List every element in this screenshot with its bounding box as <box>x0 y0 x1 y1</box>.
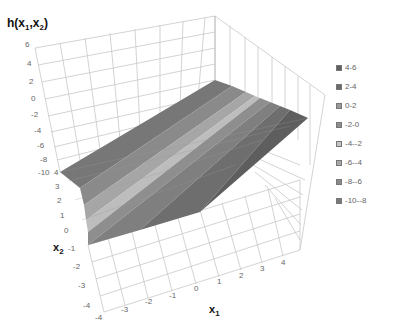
x1-tick: -2 <box>145 297 152 306</box>
z-tick: -10 <box>38 168 50 177</box>
legend-swatch <box>336 84 342 90</box>
legend-item: 2-4 <box>336 77 366 96</box>
x2-tick: 3 <box>55 182 59 191</box>
z-tick: 0 <box>31 94 35 103</box>
x1-axis-label: x1 <box>209 303 220 318</box>
legend-label: -8--6 <box>345 177 362 186</box>
surface-chart: h(x1,x2) 6 4 2 0 -2 -4 -6 -8 -10 4 3 2 1… <box>0 0 395 336</box>
x1-tick: -4 <box>95 313 102 322</box>
x1-tick: 1 <box>217 277 221 286</box>
z-tick: -2 <box>31 110 38 119</box>
x2-tick: 1 <box>60 211 64 220</box>
x2-tick: -3 <box>78 281 85 290</box>
z-tick: 6 <box>25 40 29 49</box>
legend-swatch <box>336 65 342 71</box>
chart-legend: 4-6 2-4 0-2 -2-0 -4--2 -6--4 -8--6 -10- <box>336 58 366 210</box>
legend-item: -2-0 <box>336 115 366 134</box>
legend-label: 2-4 <box>345 82 357 91</box>
z-tick: -4 <box>34 126 41 135</box>
z-tick: -6 <box>37 141 44 150</box>
x1-tick: -1 <box>169 291 176 300</box>
x1-tick: -3 <box>121 305 128 314</box>
legend-item: 0-2 <box>336 96 366 115</box>
surface <box>60 80 308 245</box>
x1-tick: 2 <box>239 271 243 280</box>
x2-tick: -1 <box>68 244 75 253</box>
legend-item: -8--6 <box>336 172 366 191</box>
legend-label: 0-2 <box>345 101 357 110</box>
x1-tick: 3 <box>260 264 264 273</box>
legend-item: -10--8 <box>336 191 366 210</box>
legend-label: -4--2 <box>345 139 362 148</box>
x2-tick: -2 <box>73 262 80 271</box>
z-tick: -8 <box>40 155 47 164</box>
chart-title: h(x1,x2) <box>7 16 48 32</box>
legend-item: -4--2 <box>336 134 366 153</box>
legend-label: 4-6 <box>345 63 357 72</box>
legend-swatch <box>336 122 342 128</box>
x2-axis-label: x2 <box>53 241 64 256</box>
legend-swatch <box>336 198 342 204</box>
x1-tick: 0 <box>194 284 198 293</box>
legend-swatch <box>336 141 342 147</box>
z-tick: 4 <box>27 59 31 68</box>
x2-tick: 4 <box>54 168 58 177</box>
legend-swatch <box>336 179 342 185</box>
legend-label: -10--8 <box>345 196 366 205</box>
legend-label: -2-0 <box>345 120 359 129</box>
legend-swatch <box>336 160 342 166</box>
x2-tick: -4 <box>83 301 90 310</box>
legend-item: -6--4 <box>336 153 366 172</box>
legend-swatch <box>336 103 342 109</box>
x2-tick: 0 <box>64 226 68 235</box>
x1-tick: 4 <box>281 258 285 267</box>
z-tick: 2 <box>29 77 33 86</box>
legend-item: 4-6 <box>336 58 366 77</box>
legend-label: -6--4 <box>345 158 362 167</box>
x2-tick: 2 <box>57 196 61 205</box>
